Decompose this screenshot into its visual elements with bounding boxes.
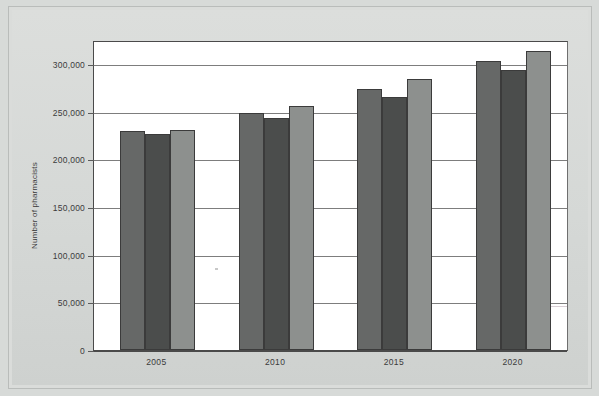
y-tick-0 — [88, 351, 94, 352]
scan-artifact-mark — [551, 306, 567, 307]
x-tick-label-2015: 2015 — [384, 357, 404, 367]
bar-2015-series-2[interactable] — [382, 97, 407, 350]
scan-artifact-dot — [215, 268, 218, 270]
bar-2015-series-1[interactable] — [357, 89, 382, 350]
bar-group-2005 — [120, 42, 195, 350]
scanned-page: Number of pharmacists 050,000100,000150,… — [0, 0, 599, 396]
plot-area — [93, 41, 568, 351]
bar-2020-series-2[interactable] — [501, 70, 526, 350]
bar-group-2010 — [239, 42, 314, 350]
y-tick-label: 300,000 — [53, 60, 85, 70]
bar-group-2015 — [357, 42, 432, 350]
bar-2020-series-3[interactable] — [526, 51, 551, 351]
bar-2015-series-3[interactable] — [407, 79, 432, 350]
y-axis-tick-labels: 050,000100,000150,000200,000250,000300,0… — [0, 41, 85, 351]
y-tick-label: 250,000 — [53, 108, 85, 118]
x-tick-label-2020: 2020 — [503, 357, 523, 367]
y-tick-label: 200,000 — [53, 155, 85, 165]
bar-2005-series-3[interactable] — [170, 130, 195, 350]
y-tick-150000 — [88, 208, 94, 209]
y-tick-label: 0 — [80, 346, 85, 356]
bar-2010-series-2[interactable] — [264, 118, 289, 350]
y-tick-label: 100,000 — [53, 251, 85, 261]
bar-2005-series-1[interactable] — [120, 131, 145, 350]
bar-2010-series-1[interactable] — [239, 113, 264, 351]
y-tick-label: 50,000 — [58, 298, 85, 308]
y-tick-100000 — [88, 256, 94, 257]
bar-2010-series-3[interactable] — [289, 106, 314, 350]
x-tick-label-2010: 2010 — [265, 357, 285, 367]
gridline-0 — [94, 351, 567, 352]
y-tick-200000 — [88, 160, 94, 161]
y-tick-label: 150,000 — [53, 203, 85, 213]
bar-2005-series-2[interactable] — [145, 134, 170, 350]
bar-2020-series-1[interactable] — [476, 61, 501, 350]
y-tick-250000 — [88, 113, 94, 114]
y-tick-300000 — [88, 65, 94, 66]
x-tick-label-2005: 2005 — [146, 357, 166, 367]
y-tick-50000 — [88, 303, 94, 304]
bar-group-2020 — [476, 42, 551, 350]
bar-chart: Number of pharmacists 050,000100,000150,… — [0, 0, 599, 396]
